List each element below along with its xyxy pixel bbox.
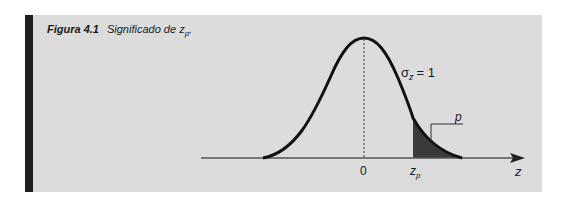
mean-tick-label: 0 xyxy=(360,164,367,178)
sigma-label: σz= 1 xyxy=(401,65,435,82)
axis-label: z xyxy=(514,164,522,179)
tail-area-label: p xyxy=(454,110,462,124)
tail-area-leader xyxy=(431,124,463,141)
normal-curve-diagram: p σz= 1 0 zp z xyxy=(0,0,569,207)
bell-curve xyxy=(263,38,462,158)
critical-value-label: zp xyxy=(409,164,421,180)
